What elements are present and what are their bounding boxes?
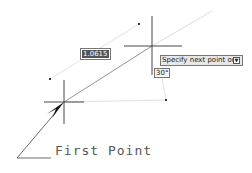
- dimension-grip: [138, 23, 140, 25]
- length-value: 1.0615: [82, 50, 109, 58]
- extension-line: [152, 11, 212, 46]
- first-point-label: First Point: [55, 143, 152, 158]
- down-arrow-icon[interactable]: ▼: [233, 57, 240, 64]
- dimension-grip: [49, 78, 51, 80]
- prompt-text: Specify next point or: [162, 56, 235, 64]
- angle-arc: [162, 78, 166, 100]
- angle-value: 30°: [156, 69, 168, 77]
- length-input-field[interactable]: 1.0615: [80, 48, 111, 60]
- angle-input-field[interactable]: 30°: [154, 68, 170, 78]
- command-prompt-tooltip: Specify next point or ▼: [160, 55, 243, 66]
- dimension-grip: [165, 99, 167, 101]
